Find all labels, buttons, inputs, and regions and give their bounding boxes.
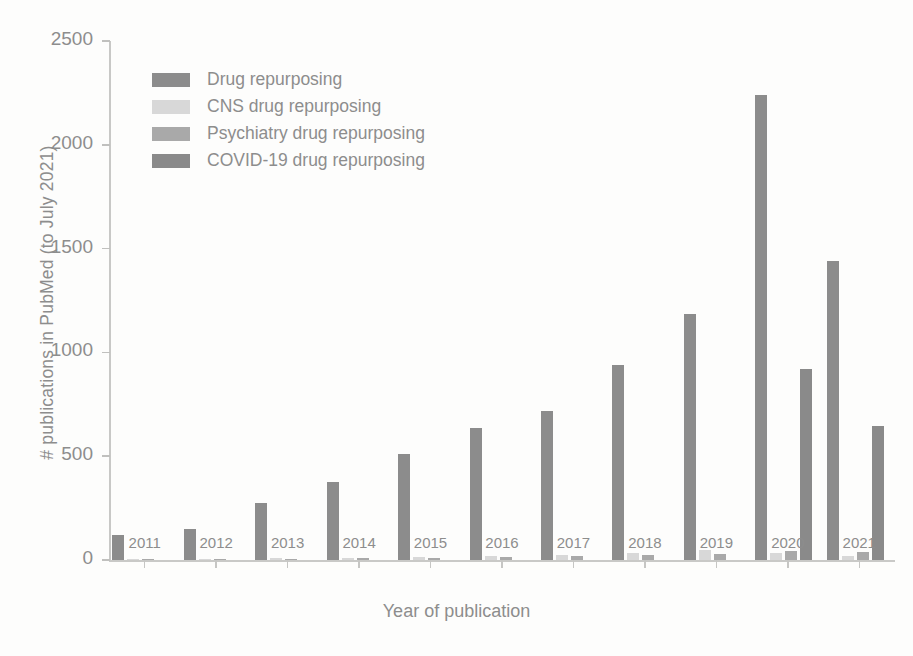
legend-label-1: CNS drug repurposing <box>207 96 381 117</box>
y-tick-1500 <box>102 248 110 250</box>
y-axis-line <box>109 41 111 560</box>
legend-swatch-icon-1 <box>152 100 190 114</box>
y-tick-2500 <box>102 40 110 42</box>
bar-2015-series-2 <box>428 558 440 560</box>
bar-2013-series-0 <box>255 503 267 560</box>
x-tick-label-2021: 2021 <box>814 534 904 551</box>
y-tick-label-0: 0 <box>0 547 93 569</box>
bar-2020-series-3 <box>800 369 812 560</box>
legend-swatch-icon-2 <box>152 127 190 141</box>
x-tick-2021 <box>859 560 861 568</box>
bar-2021-series-1 <box>842 556 854 560</box>
x-axis-title: Year of publication <box>0 601 913 622</box>
bar-2018-series-1 <box>627 553 639 560</box>
bar-2012-series-2 <box>214 559 226 560</box>
bar-2013-series-2 <box>285 559 297 560</box>
bar-2016-series-2 <box>500 557 512 560</box>
x-tick-2016 <box>501 560 503 568</box>
y-tick-label-2500: 2500 <box>0 28 93 50</box>
x-tick-2020 <box>787 560 789 568</box>
bar-2020-series-0 <box>755 95 767 560</box>
bar-2017-series-2 <box>571 556 583 560</box>
y-tick-label-1000: 1000 <box>0 339 93 361</box>
x-tick-2018 <box>644 560 646 568</box>
bar-2017-series-1 <box>556 555 568 560</box>
legend-label-0: Drug repurposing <box>207 69 342 90</box>
legend-label-2: Psychiatry drug repurposing <box>207 123 425 144</box>
x-tick-2015 <box>430 560 432 568</box>
bar-2019-series-2 <box>714 554 726 560</box>
legend-swatch-icon-0 <box>152 73 190 87</box>
legend: Drug repurposingCNS drug repurposingPsyc… <box>152 68 425 176</box>
x-tick-2019 <box>716 560 718 568</box>
bar-2016-series-1 <box>485 556 497 560</box>
x-tick-2013 <box>287 560 289 568</box>
x-tick-2014 <box>358 560 360 568</box>
bar-2020-series-1 <box>770 553 782 560</box>
legend-label-3: COVID-19 drug repurposing <box>207 150 425 171</box>
figure-canvas: # publications in PubMed (to July 2021) … <box>0 0 913 656</box>
y-tick-label-1500: 1500 <box>0 236 93 258</box>
bar-2021-series-2 <box>857 552 869 560</box>
legend-item-2[interactable]: Psychiatry drug repurposing <box>152 122 425 145</box>
y-tick-2000 <box>102 144 110 146</box>
bar-2014-series-1 <box>342 558 354 560</box>
bar-2011-series-1 <box>127 559 139 560</box>
y-tick-500 <box>102 455 110 457</box>
bar-2012-series-1 <box>199 559 211 560</box>
bar-2018-series-0 <box>612 365 624 560</box>
bar-2013-series-1 <box>270 558 282 560</box>
x-tick-2011 <box>144 560 146 568</box>
y-tick-label-500: 500 <box>0 443 93 465</box>
bar-2021-series-0 <box>827 261 839 560</box>
x-tick-2012 <box>215 560 217 568</box>
legend-item-0[interactable]: Drug repurposing <box>152 68 425 91</box>
bar-2019-series-0 <box>684 314 696 560</box>
legend-swatch-icon-3 <box>152 154 190 168</box>
y-tick-1000 <box>102 352 110 354</box>
legend-item-3[interactable]: COVID-19 drug repurposing <box>152 149 425 172</box>
bar-2011-series-2 <box>142 559 154 560</box>
bar-2014-series-2 <box>357 558 369 560</box>
y-tick-label-2000: 2000 <box>0 132 93 154</box>
bar-2018-series-2 <box>642 555 654 560</box>
bar-2020-series-2 <box>785 551 797 560</box>
bar-2015-series-1 <box>413 557 425 560</box>
legend-item-1[interactable]: CNS drug repurposing <box>152 95 425 118</box>
bar-2019-series-1 <box>699 550 711 560</box>
y-tick-0 <box>102 559 110 561</box>
x-tick-2017 <box>573 560 575 568</box>
